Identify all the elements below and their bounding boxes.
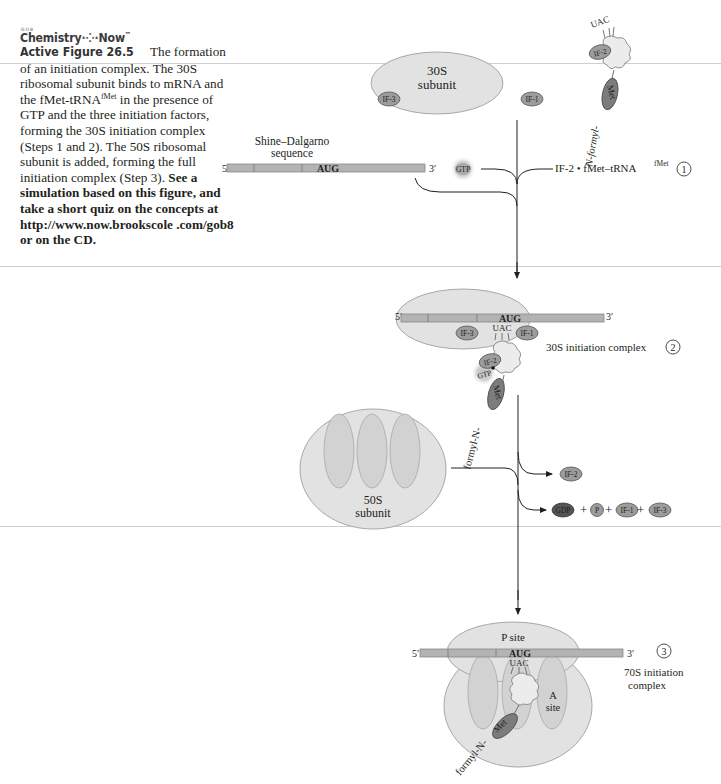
step1-30s-subunit: 30S subunit IF-3 IF-1 — [371, 52, 543, 114]
step1-mrna: 5′ Shine–Dalgarno sequence AUG 3′ — [222, 135, 436, 174]
svg-text:A: A — [549, 690, 557, 701]
step1-trna-complex: UAC IF-2 Met N-formyl- — [583, 14, 631, 168]
svg-text:AUG: AUG — [317, 163, 339, 174]
svg-text:+: + — [637, 502, 644, 517]
svg-text:IF-2 • fMet–tRNA: IF-2 • fMet–tRNA — [555, 162, 637, 174]
svg-text:fMet: fMet — [654, 159, 669, 168]
svg-text:50S: 50S — [364, 493, 383, 507]
svg-text:IF-3: IF-3 — [654, 506, 667, 515]
svg-text:IF-2: IF-2 — [565, 470, 578, 479]
svg-text:UAC: UAC — [509, 658, 528, 668]
svg-text:IF-3: IF-3 — [461, 329, 474, 338]
step3-70s-initiation-complex: P site 5′ AUG 3′ UAC Met formyl-N- A sit… — [412, 622, 684, 777]
svg-text:AUG: AUG — [499, 313, 521, 324]
svg-text:GTP: GTP — [456, 165, 470, 174]
svg-text:IF-1: IF-1 — [526, 95, 539, 104]
step1-reagent-label: IF-2 • fMet–tRNA fMet 1 — [555, 159, 691, 176]
svg-text:1: 1 — [682, 164, 687, 175]
svg-text:subunit: subunit — [355, 506, 391, 520]
svg-text:site: site — [546, 702, 561, 713]
svg-text:+: + — [605, 502, 612, 517]
svg-text:70S initiation: 70S initiation — [624, 666, 684, 678]
svg-text:UAC: UAC — [492, 323, 511, 333]
svg-text:P: P — [595, 506, 599, 515]
step2-arrows — [451, 395, 552, 614]
svg-text:IF-1: IF-1 — [521, 329, 534, 338]
svg-text:3′: 3′ — [627, 648, 634, 659]
svg-text:IF-3: IF-3 — [383, 95, 396, 104]
svg-text:GDP: GDP — [555, 506, 570, 515]
svg-text:3: 3 — [662, 646, 667, 657]
svg-text:IF-1: IF-1 — [621, 506, 634, 515]
svg-text:sequence: sequence — [271, 147, 313, 160]
svg-text:30S initiation complex: 30S initiation complex — [546, 341, 647, 353]
svg-text:formyl-N-: formyl-N- — [461, 425, 483, 470]
svg-text:P site: P site — [501, 631, 525, 643]
svg-text:UAC: UAC — [589, 14, 610, 30]
svg-text:complex: complex — [628, 679, 666, 691]
released-factors: IF-2 GDP + P + IF-1 + IF-3 — [552, 467, 671, 517]
svg-text:2: 2 — [671, 342, 676, 353]
svg-text:+: + — [580, 502, 587, 517]
gtp-molecule: GTP — [450, 156, 476, 182]
svg-text:3′: 3′ — [429, 163, 436, 174]
svg-text:subunit: subunit — [418, 77, 457, 92]
svg-text:30S: 30S — [427, 63, 447, 78]
svg-text:AUG: AUG — [509, 648, 531, 659]
initiation-complex-diagram: 30S subunit IF-3 IF-1 UAC IF-2 Met N-for… — [0, 0, 721, 784]
svg-text:3′: 3′ — [606, 311, 613, 322]
svg-text:5′: 5′ — [412, 648, 419, 659]
step1-arrows — [415, 120, 553, 278]
50s-subunit: 50S subunit — [300, 409, 446, 529]
